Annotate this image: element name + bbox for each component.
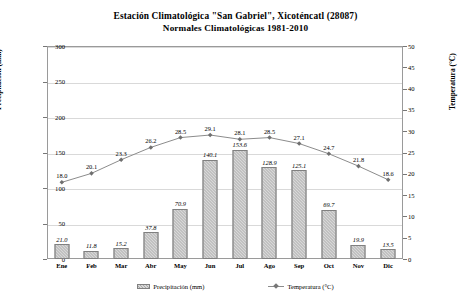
- y2-tick-label: 35: [408, 106, 434, 113]
- climatology-chart: Estación Climatológica "San Gabriel", Xi…: [0, 0, 471, 303]
- x-tick-label: May: [166, 262, 196, 269]
- y2-tick-label: 40: [408, 85, 434, 92]
- y2-axis-title: Temperatura (°C): [448, 53, 457, 110]
- x-tick-label: Abr: [136, 262, 166, 269]
- y2-tick-label: 50: [408, 43, 434, 50]
- y2-tick-label: 45: [408, 64, 434, 71]
- chart-title-block: Estación Climatológica "San Gabriel", Xi…: [0, 10, 471, 34]
- precipitation-value-label: 128.9: [262, 159, 276, 166]
- legend-label-temperature: Temperatura (°C): [287, 283, 333, 290]
- bar-swatch-icon: [137, 284, 150, 289]
- precipitation-value-label: 37.8: [145, 224, 156, 231]
- precipitation-bar: [292, 170, 307, 259]
- y-axis-title: Precipitación (mm): [0, 49, 3, 110]
- x-tick-label: Sep: [284, 262, 314, 269]
- y2-tick-label: 20: [408, 170, 434, 177]
- chart-subtitle: Normales Climatológicas 1981-2010: [0, 22, 471, 34]
- x-tick-label: Feb: [77, 262, 107, 269]
- bar-slot: 70.9: [166, 46, 196, 259]
- precipitation-bar: [351, 245, 366, 259]
- precipitation-value-label: 70.9: [175, 200, 186, 207]
- precipitation-value-label: 21.0: [56, 236, 67, 243]
- precipitation-bar: [84, 251, 99, 259]
- y2-tick-label: 5: [408, 234, 434, 241]
- chart-legend: Precipitación (mm) Temperatura (°C): [0, 283, 471, 290]
- y2-tick-label: 25: [408, 149, 434, 156]
- y2-tick-mark: [403, 46, 407, 47]
- bar-slot: 128.9: [255, 46, 285, 259]
- y2-tick-mark: [403, 89, 407, 90]
- y2-tick-mark: [403, 259, 407, 260]
- y2-tick-label: 10: [408, 213, 434, 220]
- y2-tick-label: 0: [408, 256, 434, 263]
- precipitation-value-label: 11.8: [86, 242, 97, 249]
- y2-tick-label: 15: [408, 192, 434, 199]
- bar-slot: 19.9: [344, 46, 374, 259]
- precipitation-value-label: 69.7: [323, 201, 334, 208]
- bar-slot: 21.0: [47, 46, 77, 259]
- precipitation-bar: [321, 210, 336, 259]
- bar-slot: 69.7: [314, 46, 344, 259]
- bar-slot: 153.6: [225, 46, 255, 259]
- chart-title: Estación Climatológica "San Gabriel", Xi…: [0, 10, 471, 22]
- precipitation-bar: [143, 232, 158, 259]
- bar-slot: 15.2: [106, 46, 136, 259]
- x-axis-labels: EneFebMarAbrMayJunJulAgoSepOctNovDic: [47, 262, 403, 274]
- precipitation-bars: 21.011.815.237.870.9140.1153.6128.9125.1…: [47, 46, 403, 259]
- precipitation-value-label: 13.5: [383, 241, 394, 248]
- line-marker-icon: [268, 283, 284, 290]
- x-tick-label: Ago: [255, 262, 285, 269]
- x-tick-label: Jun: [195, 262, 225, 269]
- precipitation-value-label: 125.1: [292, 162, 306, 169]
- precipitation-bar: [173, 209, 188, 259]
- y2-tick-mark: [403, 238, 407, 239]
- precipitation-bar: [203, 160, 218, 259]
- bar-slot: 13.5: [373, 46, 403, 259]
- legend-label-precipitation: Precipitación (mm): [153, 283, 204, 290]
- precipitation-bar: [262, 167, 277, 259]
- x-tick-label: Oct: [314, 262, 344, 269]
- precipitation-bar: [54, 244, 69, 259]
- x-tick-label: Jul: [225, 262, 255, 269]
- y2-tick-mark: [403, 131, 407, 132]
- y2-tick-mark: [403, 110, 407, 111]
- y2-tick-label: 30: [408, 128, 434, 135]
- bar-slot: 140.1: [195, 46, 225, 259]
- x-tick-label: Nov: [344, 262, 374, 269]
- legend-item-temperature: Temperatura (°C): [268, 283, 333, 290]
- bar-slot: 11.8: [77, 46, 107, 259]
- precipitation-bar: [232, 150, 247, 259]
- precipitation-value-label: 19.9: [353, 236, 364, 243]
- x-tick-label: Mar: [106, 262, 136, 269]
- y2-tick-mark: [403, 67, 407, 68]
- y2-tick-mark: [403, 174, 407, 175]
- y2-tick-mark: [403, 153, 407, 154]
- precipitation-value-label: 15.2: [116, 240, 127, 247]
- x-tick-label: Ene: [47, 262, 77, 269]
- precipitation-bar: [114, 248, 129, 259]
- precipitation-value-label: 140.1: [203, 151, 217, 158]
- legend-item-precipitation: Precipitación (mm): [137, 283, 204, 290]
- precipitation-value-label: 153.6: [233, 141, 247, 148]
- y-tick-mark: [43, 259, 47, 260]
- precipitation-bar: [381, 249, 396, 259]
- x-tick-label: Dic: [373, 262, 403, 269]
- bar-slot: 125.1: [284, 46, 314, 259]
- bar-slot: 37.8: [136, 46, 166, 259]
- y2-tick-mark: [403, 195, 407, 196]
- y2-tick-mark: [403, 216, 407, 217]
